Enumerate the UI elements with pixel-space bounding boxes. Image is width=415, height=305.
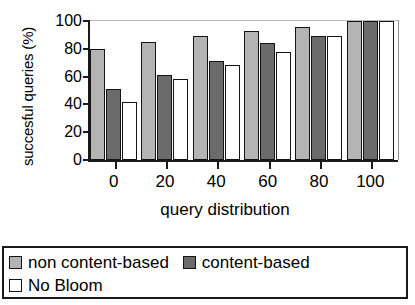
bar bbox=[327, 36, 342, 160]
bar bbox=[106, 89, 121, 160]
legend-entry-non-content-based: non content-based bbox=[9, 253, 169, 272]
bar bbox=[347, 21, 362, 160]
chart-legend: non content-based content-based No Bloom bbox=[2, 246, 408, 299]
bar bbox=[225, 65, 240, 160]
bar bbox=[122, 102, 137, 160]
legend-row-bottom: No Bloom bbox=[9, 274, 401, 297]
y-axis-tick-label: 40 bbox=[36, 96, 82, 112]
bar bbox=[173, 79, 188, 160]
x-axis-tick-mark bbox=[166, 161, 168, 169]
legend-entry-no-bloom: No Bloom bbox=[9, 276, 103, 295]
bar bbox=[244, 31, 259, 160]
x-axis-tick-label: 40 bbox=[191, 172, 241, 192]
bar-chart-figure: succesful queries (%) 020406080100 02040… bbox=[0, 0, 415, 305]
legend-swatch-icon bbox=[183, 256, 196, 269]
y-axis-tick-mark bbox=[83, 20, 90, 22]
bar-group bbox=[193, 21, 244, 160]
x-axis-tick-mark bbox=[320, 161, 322, 169]
y-axis-title: succesful queries (%) bbox=[19, 2, 36, 192]
x-axis-tick-label: 20 bbox=[140, 172, 190, 192]
y-axis-tick-mark bbox=[83, 48, 90, 50]
x-axis-tick-mark bbox=[371, 161, 373, 169]
right-frame-line bbox=[398, 20, 399, 160]
bar bbox=[193, 36, 208, 160]
y-axis-tick-mark bbox=[83, 76, 90, 78]
y-axis-tick-mark bbox=[83, 131, 90, 133]
bar bbox=[363, 21, 378, 160]
bar-group bbox=[347, 21, 398, 160]
y-axis-tick-label: 100 bbox=[36, 13, 82, 29]
legend-entry-content-based: content-based bbox=[183, 253, 310, 272]
bar bbox=[295, 27, 310, 160]
y-axis-tick-label: 20 bbox=[36, 124, 82, 140]
bar-group bbox=[244, 21, 295, 160]
x-axis-tick-labels: 020406080100 bbox=[88, 172, 398, 194]
plot-area bbox=[88, 21, 398, 162]
bar bbox=[311, 36, 326, 160]
y-axis-tick-label: 60 bbox=[36, 69, 82, 85]
y-axis-tick-label: 0 bbox=[36, 152, 82, 168]
bar bbox=[276, 52, 291, 160]
y-axis-tick-label: 80 bbox=[36, 41, 82, 57]
bar-group bbox=[295, 21, 346, 160]
x-axis-tick-label: 100 bbox=[345, 172, 395, 192]
y-axis-tick-labels: 020406080100 bbox=[36, 13, 82, 165]
x-axis-tick-mark bbox=[217, 161, 219, 169]
bar bbox=[141, 42, 156, 160]
x-axis-tick-label: 80 bbox=[294, 172, 344, 192]
bar-group bbox=[90, 21, 141, 160]
y-axis-tick-mark bbox=[83, 103, 90, 105]
bar bbox=[209, 61, 224, 160]
x-axis-tick-label: 60 bbox=[243, 172, 293, 192]
bar bbox=[157, 75, 172, 160]
y-axis-tick-mark bbox=[83, 159, 90, 161]
x-axis-tick-label: 0 bbox=[89, 172, 139, 192]
bar bbox=[379, 21, 394, 160]
legend-label: content-based bbox=[202, 253, 310, 272]
legend-row-top: non content-based content-based bbox=[9, 251, 401, 274]
x-axis-title: query distribution bbox=[60, 200, 390, 220]
x-axis-tick-mark bbox=[115, 161, 117, 169]
legend-swatch-icon bbox=[9, 279, 22, 292]
bar bbox=[260, 43, 275, 160]
legend-label: No Bloom bbox=[28, 276, 103, 295]
bar-group bbox=[141, 21, 192, 160]
x-axis-tick-mark bbox=[269, 161, 271, 169]
legend-swatch-icon bbox=[9, 256, 22, 269]
bar bbox=[90, 49, 105, 160]
legend-label: non content-based bbox=[28, 253, 169, 272]
plot-inner bbox=[90, 21, 398, 160]
